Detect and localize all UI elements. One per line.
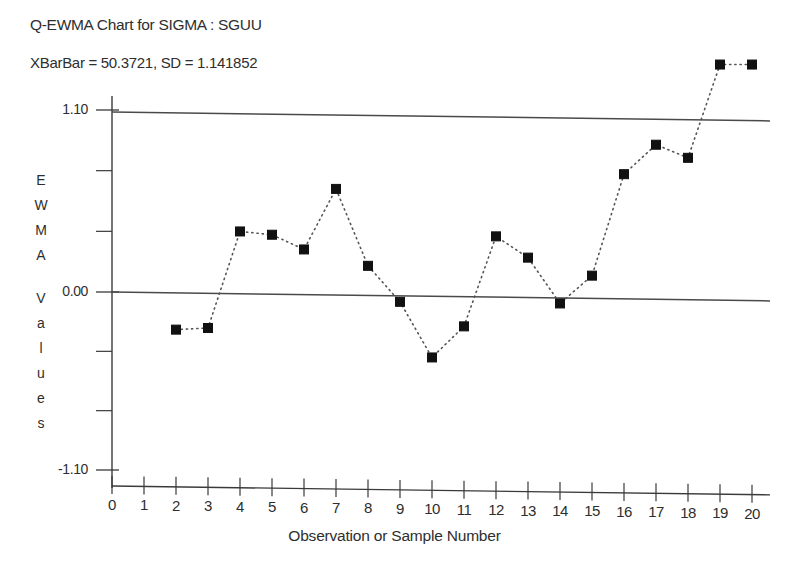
data-point-marker[interactable] [492,232,501,241]
data-point-marker[interactable] [396,297,405,306]
plot-area [0,0,789,561]
qewma-chart: Q-EWMA Chart for SIGMA : SGUU XBarBar = … [0,0,789,561]
data-point-marker[interactable] [460,322,469,331]
data-point-marker[interactable] [172,325,181,334]
data-point-marker[interactable] [332,184,341,193]
data-point-marker[interactable] [204,324,213,333]
data-point-marker[interactable] [684,153,693,162]
data-point-marker[interactable] [556,299,565,308]
reference-line-1-10 [112,112,770,121]
data-point-marker[interactable] [236,227,245,236]
data-point-marker[interactable] [620,170,629,179]
data-point-marker[interactable] [748,60,757,69]
reference-line-0-00 [112,292,770,301]
data-point-marker[interactable] [364,261,373,270]
data-point-marker[interactable] [428,353,437,362]
x-axis-line [112,486,770,495]
data-line [176,65,752,358]
data-point-marker[interactable] [652,140,661,149]
data-point-marker[interactable] [268,230,277,239]
data-point-marker[interactable] [588,271,597,280]
data-point-marker[interactable] [524,253,533,262]
data-point-marker[interactable] [300,245,309,254]
data-point-marker[interactable] [716,60,725,69]
